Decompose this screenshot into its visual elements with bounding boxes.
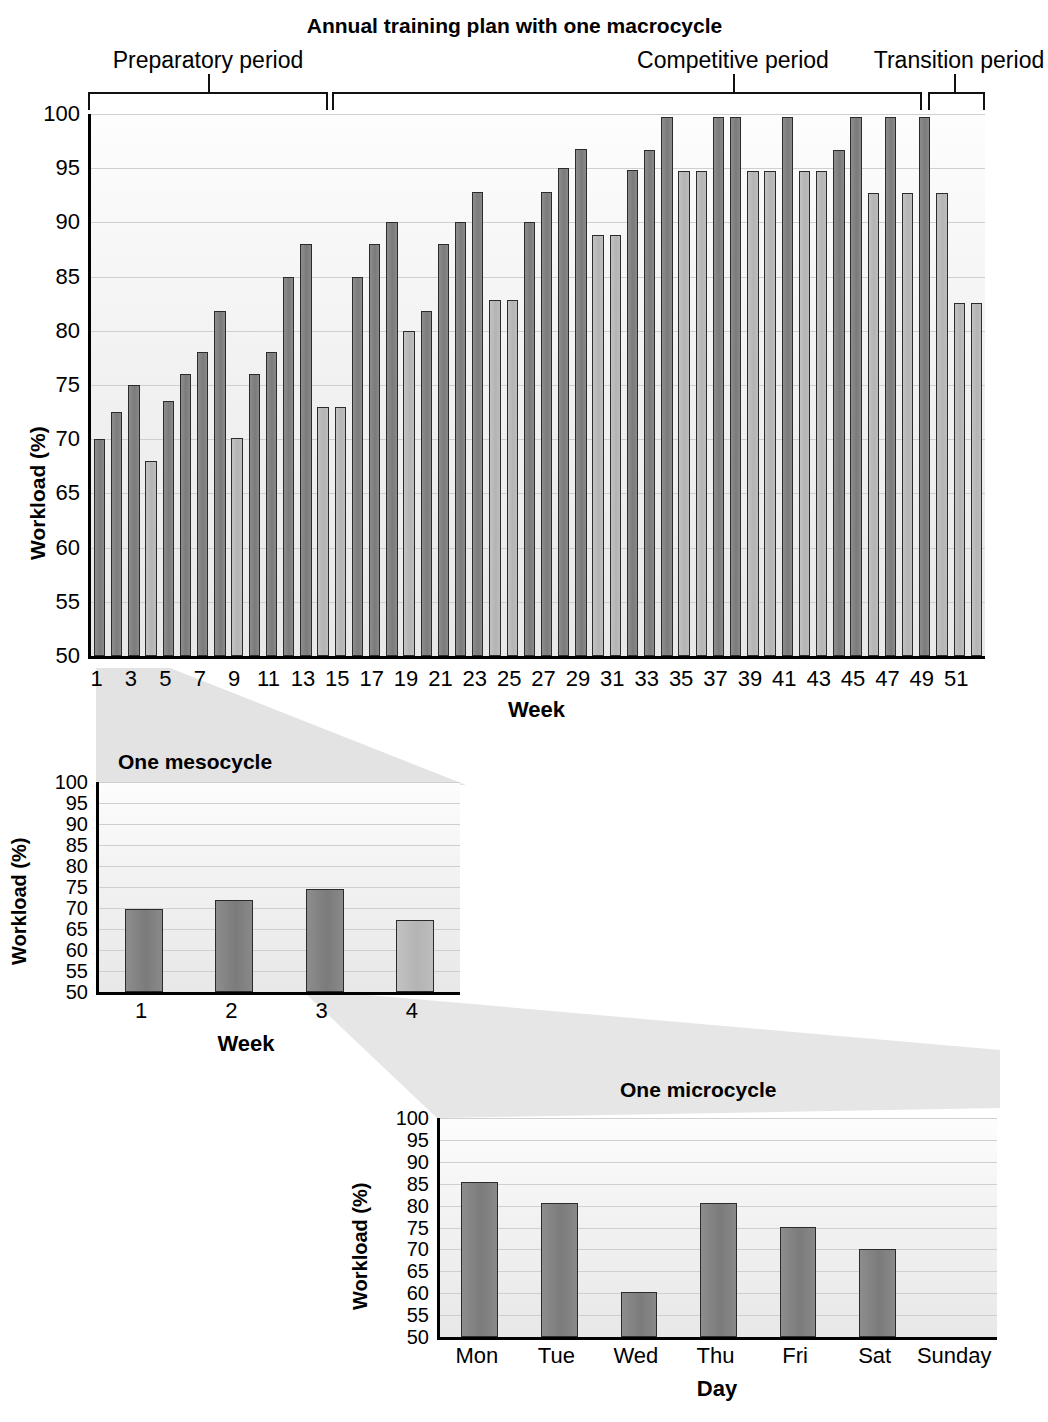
y-tick-label: 95 (365, 1130, 429, 1150)
bar (558, 168, 569, 656)
mesocycle-y-tick-labels: 50556065707580859095100 (24, 772, 88, 1002)
bar (215, 900, 253, 992)
macrocycle-x-axis-title: Week (88, 697, 985, 723)
y-tick-label: 85 (365, 1174, 429, 1194)
x-tick-label: Fri (750, 1345, 840, 1367)
mesocycle-plot-area (96, 782, 460, 995)
bracket-competitive (332, 92, 922, 110)
period-label-transition: Transition period (854, 47, 1048, 74)
y-tick-label: 85 (24, 835, 88, 855)
gridline (440, 1140, 997, 1141)
bar (816, 171, 827, 656)
microcycle-x-axis-title: Day (437, 1376, 997, 1402)
bar (163, 401, 174, 656)
bar (919, 117, 930, 656)
y-tick-label: 100 (365, 1108, 429, 1128)
gridline (99, 845, 460, 846)
y-tick-label: 60 (24, 940, 88, 960)
gridline (91, 114, 985, 115)
y-tick-label: 55 (20, 591, 80, 613)
bar (111, 412, 122, 656)
bar (489, 300, 500, 656)
y-tick-label: 95 (24, 793, 88, 813)
y-tick-label: 60 (20, 537, 80, 559)
y-tick-label: 90 (365, 1152, 429, 1172)
bracket-preparatory (88, 92, 328, 110)
microcycle-chart-title: One microcycle (620, 1078, 776, 1102)
x-tick-label: 1 (96, 1000, 186, 1022)
y-tick-label: 75 (24, 877, 88, 897)
microcycle-plot-area (437, 1118, 997, 1340)
y-tick-label: 90 (20, 211, 80, 233)
bar (764, 171, 775, 656)
x-tick-label: Thu (671, 1345, 761, 1367)
bar (782, 117, 793, 656)
bar (936, 193, 947, 656)
bar (678, 171, 689, 656)
bar (128, 385, 139, 656)
bar (747, 171, 758, 656)
bar (696, 171, 707, 656)
y-tick-label: 65 (365, 1261, 429, 1281)
bar (700, 1203, 737, 1337)
macrocycle-chart-title: Annual training plan with one macrocycle (0, 14, 1029, 38)
bar (421, 311, 432, 656)
bar (627, 170, 638, 656)
bar (472, 192, 483, 656)
x-tick-label: Sat (830, 1345, 920, 1367)
y-tick-label: 75 (365, 1218, 429, 1238)
bar (266, 352, 277, 656)
bar (396, 920, 434, 992)
x-tick-label: 3 (277, 1000, 367, 1022)
y-tick-label: 55 (365, 1305, 429, 1325)
y-tick-label: 95 (20, 157, 80, 179)
bar (902, 193, 913, 656)
bar (335, 407, 346, 656)
bar (954, 303, 965, 656)
bar (575, 149, 586, 656)
bar (403, 331, 414, 656)
x-tick-label: 4 (367, 1000, 457, 1022)
gridline (99, 803, 460, 804)
y-tick-label: 80 (365, 1196, 429, 1216)
bar (661, 117, 672, 656)
bar (283, 277, 294, 656)
gridline (99, 887, 460, 888)
mesocycle-chart-title: One mesocycle (118, 750, 272, 774)
bar (507, 300, 518, 656)
bar (214, 311, 225, 656)
gridline (440, 1118, 997, 1119)
bar (592, 235, 603, 656)
gridline (440, 1184, 997, 1185)
gridline (99, 824, 460, 825)
bracket-stem-competitive (733, 74, 735, 94)
bar (621, 1292, 658, 1337)
bar (971, 303, 982, 656)
bar (610, 235, 621, 656)
period-label-competitive: Competitive period (618, 47, 848, 74)
bracket-transition (928, 92, 985, 110)
gridline (440, 1162, 997, 1163)
mesocycle-x-tick-labels: 1234 (96, 1000, 460, 1028)
x-tick-label: 2 (186, 1000, 276, 1022)
bar (461, 1182, 498, 1337)
bar (541, 192, 552, 656)
bar (524, 222, 535, 656)
y-tick-label: 70 (365, 1239, 429, 1259)
bar (300, 244, 311, 656)
bar (455, 222, 466, 656)
bar (713, 117, 724, 656)
y-tick-label: 70 (24, 898, 88, 918)
bar (249, 374, 260, 656)
y-tick-label: 100 (20, 103, 80, 125)
bar (317, 407, 328, 656)
y-tick-label: 100 (24, 772, 88, 792)
bar (868, 193, 879, 656)
bar (730, 117, 741, 656)
period-label-preparatory: Preparatory period (88, 47, 328, 74)
y-tick-label: 65 (24, 919, 88, 939)
bar (850, 117, 861, 656)
x-tick-label: Mon (432, 1345, 522, 1367)
y-tick-label: 60 (365, 1283, 429, 1303)
